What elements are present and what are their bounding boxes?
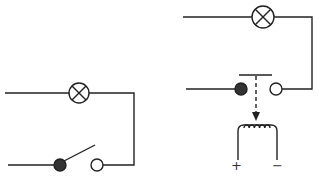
wire [89,93,134,165]
lamp-icon [69,83,89,103]
relay-open-contact [270,83,282,95]
right-circuit [183,6,312,160]
switch-lever [64,145,95,161]
coil-icon [238,125,277,160]
positive-terminal-label: + [231,159,242,172]
relay-fixed-contact [235,83,247,95]
lamp-icon [252,6,274,28]
arrow-down-icon [252,112,260,121]
wire [274,17,312,89]
switch-open-contact [91,159,103,171]
left-circuit [5,83,134,171]
circuit-diagram: + − [0,0,318,176]
negative-terminal-label: − [272,159,283,172]
